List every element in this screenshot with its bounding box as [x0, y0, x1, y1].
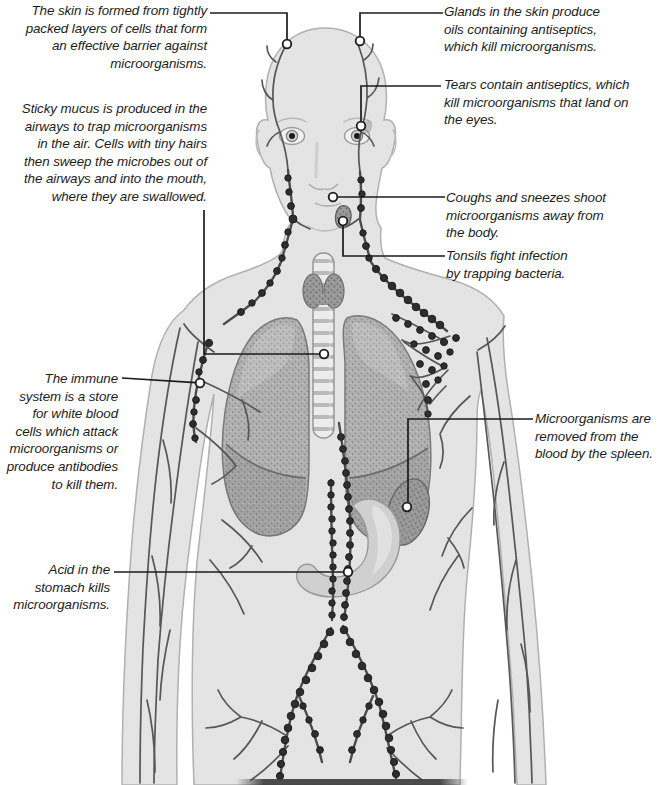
label-spleen: Microorganisms are removed from the bloo…: [535, 410, 663, 463]
label-immune-system: The immune system is a store for white b…: [0, 370, 118, 493]
marker-mucus: [320, 350, 329, 359]
marker-coughs: [329, 193, 338, 202]
marker-spleen: [403, 503, 412, 512]
label-stomach-acid: Acid in the stomach kills microorganisms…: [0, 561, 110, 614]
marker-glands: [356, 37, 365, 46]
marker-immune: [196, 379, 205, 388]
bottom-shadow: [236, 779, 468, 785]
marker-acid: [344, 568, 353, 577]
marker-tonsils: [339, 217, 348, 226]
marker-skin: [283, 40, 292, 49]
label-tonsils: Tonsils fight infection by trapping bact…: [446, 247, 636, 282]
label-mucus-airways: Sticky mucus is produced in the airways …: [0, 100, 207, 206]
label-tears: Tears contain antiseptics, which kill mi…: [444, 76, 663, 129]
leader-glands: [360, 13, 443, 37]
diagram-canvas: The skin is formed from tightly packed l…: [0, 0, 663, 785]
marker-tears: [357, 122, 366, 131]
label-coughs-sneezes: Coughs and sneezes shoot microorganisms …: [446, 189, 636, 242]
label-skin-glands: Glands in the skin produce oils containi…: [444, 3, 654, 56]
leader-skin: [210, 13, 287, 40]
label-skin-barrier: The skin is formed from tightly packed l…: [0, 2, 207, 72]
